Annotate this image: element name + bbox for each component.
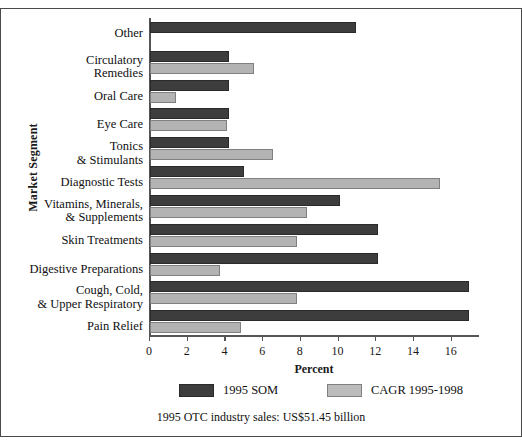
bar-group	[150, 166, 480, 189]
chart-legend: 1995 SOMCAGR 1995-1998	[0, 383, 522, 405]
bar-cagr	[150, 322, 241, 333]
bar-som	[150, 80, 229, 91]
bar-som	[150, 224, 378, 235]
x-tick-label-2: 2	[167, 344, 207, 359]
bar-cagr	[150, 120, 227, 131]
x-tick-0	[149, 335, 150, 341]
category-label: Cough, Cold, & Upper Respiratory	[0, 284, 143, 311]
category-label: Tonics & Stimulants	[0, 140, 143, 167]
bar-cagr	[150, 178, 440, 189]
bar-som	[150, 108, 229, 119]
x-tick-label-6: 6	[242, 344, 282, 359]
bar-som	[150, 22, 356, 33]
category-label: Diagnostic Tests	[0, 176, 143, 190]
chart-figure: Market Segment OtherCirculatory Remedies…	[0, 0, 522, 446]
bar-som	[150, 195, 340, 206]
bar-cagr	[150, 92, 176, 103]
x-tick-label-16: 16	[431, 344, 471, 359]
y-axis-category-labels: OtherCirculatory RemediesOral CareEye Ca…	[0, 18, 143, 335]
x-tick-label-10: 10	[318, 344, 358, 359]
x-tick-6	[262, 335, 263, 341]
bar-group	[150, 80, 480, 103]
bar-som	[150, 253, 378, 264]
x-tick-4	[224, 335, 225, 341]
bar-group	[150, 137, 480, 160]
bar-som	[150, 281, 469, 292]
bar-cagr	[150, 207, 307, 218]
bar-group	[150, 224, 480, 247]
category-label: Skin Treatments	[0, 234, 143, 248]
legend-label: CAGR 1995-1998	[371, 383, 463, 398]
x-tick-label-12: 12	[355, 344, 395, 359]
bar-group	[150, 281, 480, 304]
category-label: Other	[0, 27, 143, 41]
x-tick-12	[375, 335, 376, 341]
bar-som	[150, 137, 229, 148]
bar-cagr	[150, 293, 297, 304]
bar-group	[150, 253, 480, 276]
category-label: Circulatory Remedies	[0, 54, 143, 81]
bar-group	[150, 195, 480, 218]
bar-cagr	[150, 149, 273, 160]
x-tick-label-8: 8	[280, 344, 320, 359]
legend-swatch-som	[179, 384, 214, 397]
category-label: Digestive Preparations	[0, 263, 143, 277]
category-label: Pain Relief	[0, 320, 143, 334]
category-label: Vitamins, Minerals, & Supplements	[0, 198, 143, 225]
bar-group	[150, 310, 480, 333]
bar-group	[150, 108, 480, 131]
x-axis-title: Percent	[149, 362, 479, 377]
bar-group	[150, 51, 480, 74]
x-tick-16	[451, 335, 452, 341]
category-label: Eye Care	[0, 118, 143, 132]
x-tick-2	[187, 335, 188, 341]
bar-cagr	[150, 236, 297, 247]
x-axis-line	[149, 335, 479, 337]
bar-cagr	[150, 63, 254, 74]
bar-som	[150, 51, 229, 62]
x-tick-8	[300, 335, 301, 341]
bar-som	[150, 310, 469, 321]
bar-som	[150, 166, 244, 177]
bar-cagr	[150, 265, 220, 276]
x-tick-label-14: 14	[393, 344, 433, 359]
bar-group	[150, 22, 480, 45]
figure-top-rule	[0, 8, 522, 9]
category-label: Oral Care	[0, 90, 143, 104]
chart-footnote: 1995 OTC industry sales: US$51.45 billio…	[0, 410, 522, 425]
plot-area: 0246810121416 Percent	[149, 18, 479, 335]
x-tick-10	[338, 335, 339, 341]
figure-bottom-rule	[0, 436, 522, 437]
legend-label: 1995 SOM	[223, 383, 278, 398]
x-tick-14	[413, 335, 414, 341]
x-tick-label-0: 0	[129, 344, 169, 359]
x-tick-label-4: 4	[204, 344, 244, 359]
legend-swatch-cagr	[327, 384, 362, 397]
